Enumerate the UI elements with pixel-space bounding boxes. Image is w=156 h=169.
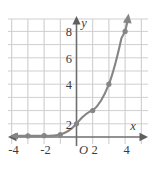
y-tick-label-8: 8 — [66, 25, 72, 39]
data-point — [42, 133, 47, 138]
data-point — [90, 108, 95, 113]
x-tick-label-neg2: -2 — [40, 143, 50, 157]
x-axis-label: x — [129, 119, 136, 133]
y-tick-label-6: 6 — [66, 52, 72, 66]
x-tick-label-pos2: 2 — [91, 143, 97, 157]
data-point — [74, 121, 79, 126]
y-tick-label-4: 4 — [66, 78, 73, 92]
data-point — [106, 82, 111, 87]
data-point — [123, 29, 128, 34]
y-tick-label-2: 2 — [66, 118, 72, 132]
data-point — [25, 133, 30, 138]
y-axis-label: y — [79, 16, 87, 30]
exponential-function-graph: 2 4 6 8 -4 -2 2 4 O x y — [0, 0, 156, 169]
x-tick-label-neg4: -4 — [8, 143, 19, 157]
chart-svg: 2 4 6 8 -4 -2 2 4 O x y — [0, 0, 156, 169]
x-tick-label-pos4: 4 — [123, 143, 130, 157]
data-point — [58, 132, 63, 137]
origin-label: O — [79, 143, 88, 157]
